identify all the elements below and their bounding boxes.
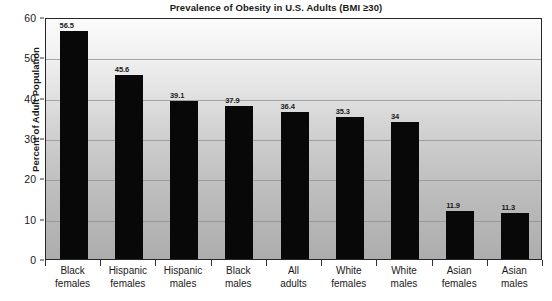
x-axis-tick-mark <box>266 260 267 266</box>
y-axis-tick-mark <box>40 179 44 180</box>
y-axis-tick-mark <box>40 139 44 140</box>
x-axis-tick-mark <box>211 260 212 266</box>
x-axis-tick-mark <box>321 260 322 266</box>
y-axis-tick-mark <box>40 260 44 261</box>
x-axis-tick-mark <box>100 260 101 266</box>
x-axis-tick-mark <box>542 260 543 266</box>
bar <box>446 211 474 259</box>
bar-value-label: 11.9 <box>446 201 460 210</box>
x-axis-category-line: males <box>479 277 549 290</box>
y-axis-tick-label: 10 <box>2 214 36 226</box>
bar <box>115 75 143 259</box>
y-axis-tick-label: 20 <box>2 173 36 185</box>
x-axis-category-line: Asian <box>479 264 549 277</box>
bar-value-label: 37.9 <box>225 96 239 105</box>
bar-value-label: 56.5 <box>60 21 74 30</box>
x-axis-category-label: Asianmales <box>479 264 549 290</box>
y-axis-tick-label: 60 <box>2 12 36 24</box>
y-axis-tick-label: 0 <box>2 254 36 266</box>
bar-value-label: 45.6 <box>115 65 129 74</box>
bar-value-label: 36.4 <box>281 102 295 111</box>
bar <box>501 213 529 259</box>
x-axis-tick-mark <box>155 260 156 266</box>
y-axis-tick-mark <box>40 219 44 220</box>
x-axis-tick-mark <box>487 260 488 266</box>
bar <box>225 106 253 259</box>
bar-chart: Prevalence of Obesity in U.S. Adults (BM… <box>0 0 552 301</box>
bar <box>336 117 364 259</box>
bar <box>170 101 198 259</box>
chart-title: Prevalence of Obesity in U.S. Adults (BM… <box>0 2 552 13</box>
bar-value-label: 39.1 <box>170 91 184 100</box>
x-axis-tick-mark <box>45 260 46 266</box>
bar-value-label: 11.3 <box>501 203 515 212</box>
bar-value-label: 35.3 <box>336 107 350 116</box>
gridline <box>46 59 541 60</box>
bar <box>60 31 88 259</box>
y-axis-tick-mark <box>40 58 44 59</box>
bar <box>391 122 419 259</box>
y-axis-tick-mark <box>40 18 44 19</box>
y-axis-tick-label: 50 <box>2 52 36 64</box>
x-axis-tick-mark <box>376 260 377 266</box>
plot-area <box>45 18 542 260</box>
y-axis-tick-label: 40 <box>2 93 36 105</box>
y-axis-tick-label: 30 <box>2 133 36 145</box>
bar-value-label: 34 <box>391 112 399 121</box>
y-axis-tick-mark <box>40 98 44 99</box>
x-axis-tick-mark <box>432 260 433 266</box>
bar <box>281 112 309 259</box>
